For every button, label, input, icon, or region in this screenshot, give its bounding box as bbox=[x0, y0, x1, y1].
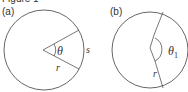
angle-arc-b bbox=[155, 38, 162, 61]
radius-line-upper-b bbox=[154, 12, 163, 35]
theta-label-a: θ bbox=[57, 44, 63, 58]
panel-b-label: (b) bbox=[110, 6, 122, 17]
radius-line-mid-upper-b bbox=[150, 35, 154, 48]
figure-canvas: Figure 1 (a) θ s r (b) θ1 r bbox=[0, 0, 188, 92]
radius-label-b: r bbox=[153, 68, 157, 79]
angle-arc-a bbox=[54, 44, 56, 56]
figure-caption-fragment: Figure 1 bbox=[2, 0, 39, 4]
panel-b: (b) θ1 r bbox=[110, 6, 188, 88]
radius-line-mid-lower-b bbox=[150, 48, 155, 61]
radius-label-a: r bbox=[56, 62, 60, 73]
arc-length-label: s bbox=[86, 44, 90, 55]
theta-label-b: θ1 bbox=[168, 44, 178, 60]
circle-a bbox=[4, 10, 84, 90]
panel-a: (a) θ s r bbox=[2, 6, 90, 90]
panel-a-label: (a) bbox=[2, 6, 14, 17]
circle-b bbox=[112, 12, 188, 88]
